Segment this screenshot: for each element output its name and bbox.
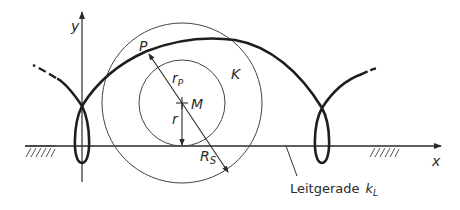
- x-axis-label: x: [431, 153, 441, 169]
- radius-rp-label: rP: [172, 70, 184, 88]
- center-m-cross: [176, 97, 188, 109]
- trochoid-loop-left: [58, 79, 89, 163]
- trochoid-diagram: y x P M K rP r RS LeitgeradekL: [0, 0, 460, 210]
- trochoid-dashed-tail-right: [362, 68, 378, 74]
- circle-k-label: K: [231, 66, 242, 82]
- center-m-label: M: [191, 96, 203, 112]
- radius-r-label: r: [172, 111, 179, 127]
- point-p-label: P: [139, 38, 148, 54]
- trochoid-dashed-tail-left: [33, 65, 56, 78]
- ground-hatching-right: [370, 148, 399, 157]
- ground-hatching-left: [25, 146, 55, 157]
- guide-line-label: LeitgeradekL: [290, 181, 378, 198]
- guide-line-leader: [286, 146, 297, 176]
- y-axis-label: y: [70, 18, 80, 34]
- trochoid-curve: [82, 38, 362, 163]
